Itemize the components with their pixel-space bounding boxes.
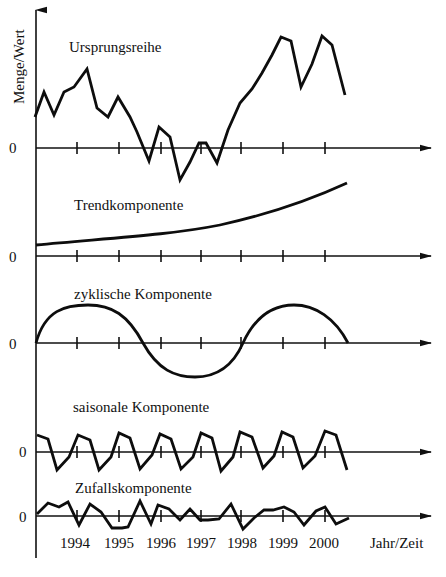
panel-title-zufallskomponente: Zufallskomponente	[75, 480, 192, 496]
panel-zufallskomponente: Zufallskomponente 0	[19, 480, 431, 529]
series-saisonale-komponente	[37, 431, 347, 471]
series-ursprungsreihe	[35, 36, 345, 180]
year-label: 1999	[268, 535, 298, 551]
zero-label: 0	[9, 336, 17, 352]
panel-saisonale-komponente: saisonale Komponente 0	[19, 399, 431, 471]
year-label: 1994	[60, 535, 91, 551]
year-label: 2000	[309, 535, 339, 551]
x-axis-label: Jahr/Zeit	[370, 535, 424, 551]
series-zyklische-komponente	[36, 305, 348, 377]
panel-ursprungsreihe: Ursprungsreihe 0	[9, 36, 431, 180]
panel-zyklische-komponente: zyklische Komponente 0	[9, 286, 431, 377]
panel-title-ursprungsreihe: Ursprungsreihe	[69, 39, 162, 55]
y-axis-label: Menge/Wert	[11, 29, 27, 104]
zero-label: 0	[9, 249, 17, 265]
year-label: 1995	[104, 535, 134, 551]
panel-trendkomponente: Trendkomponente 0	[9, 183, 431, 265]
panel-title-zyklische-komponente: zyklische Komponente	[74, 286, 212, 302]
series-zufallskomponente	[37, 501, 349, 529]
time-series-decomposition-chart: Menge/Wert Ursprungsreihe 0 Trendkompone…	[0, 0, 446, 577]
zero-label: 0	[19, 444, 27, 460]
panel-title-saisonale-komponente: saisonale Komponente	[73, 399, 210, 415]
zero-label: 0	[19, 509, 27, 525]
year-label: 1997	[186, 535, 217, 551]
year-label: 1996	[146, 535, 177, 551]
x-axis-year-labels: 1994 1995 1996 1997 1998 1999 2000	[60, 535, 339, 551]
year-label: 1998	[227, 535, 257, 551]
panel-title-trendkomponente: Trendkomponente	[74, 197, 184, 213]
zero-label: 0	[9, 140, 17, 156]
series-trendkomponente	[36, 183, 347, 245]
